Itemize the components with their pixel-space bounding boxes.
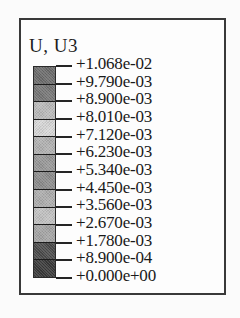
color-band [34, 137, 55, 155]
tick-label: +9.790e-03 [76, 73, 152, 90]
contour-tick-list: +1.068e-02+9.790e-03+8.900e-03+8.010e-03… [56, 66, 222, 278]
color-band [34, 208, 55, 226]
tick-label: +1.780e-03 [76, 232, 152, 249]
tick-label: +8.900e-04 [76, 249, 152, 266]
color-band [34, 67, 55, 85]
tick-mark [56, 224, 72, 226]
color-band [34, 155, 55, 173]
tick-mark [56, 206, 72, 208]
tick-label: +5.340e-03 [76, 161, 152, 178]
tick-label: +7.120e-03 [76, 126, 152, 143]
tick-mark [56, 153, 72, 155]
tick-label: +3.560e-03 [76, 196, 152, 213]
tick-mark [56, 136, 72, 138]
color-band [34, 172, 55, 190]
tick-label: +8.900e-03 [76, 90, 152, 107]
tick-label: +6.230e-03 [76, 143, 152, 160]
contour-color-bar [33, 66, 56, 278]
tick-mark [56, 242, 72, 244]
color-band [34, 243, 55, 261]
color-band [34, 85, 55, 103]
color-band [34, 190, 55, 208]
tick-mark [56, 171, 72, 173]
tick-mark [56, 189, 72, 191]
tick-mark [56, 100, 72, 102]
color-band [34, 102, 55, 120]
tick-mark [56, 83, 72, 85]
color-band [34, 225, 55, 243]
color-band [34, 260, 55, 277]
tick-label: +0.000e+00 [76, 267, 156, 284]
color-band [34, 120, 55, 138]
scanned-page-background: U, U3 +1.068e-02+9.790e-03+8.900e-03+8.0… [0, 0, 240, 318]
tick-mark [56, 277, 72, 279]
tick-mark [56, 118, 72, 120]
tick-mark [56, 65, 72, 67]
tick-label: +1.068e-02 [76, 55, 152, 72]
tick-label: +4.450e-03 [76, 179, 152, 196]
legend-title: U, U3 [29, 36, 78, 56]
tick-label: +2.670e-03 [76, 214, 152, 231]
tick-mark [56, 259, 72, 261]
tick-label: +8.010e-03 [76, 108, 152, 125]
